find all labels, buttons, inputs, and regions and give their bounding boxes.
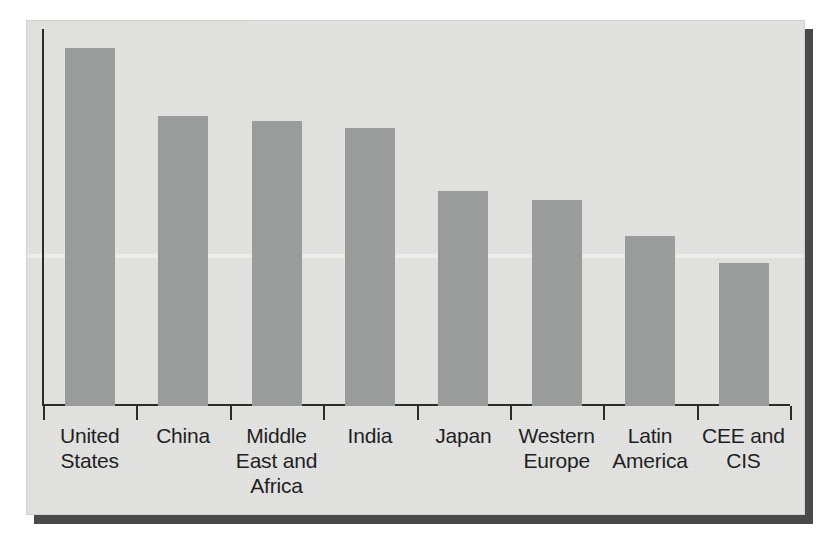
bar-united-states <box>65 48 115 406</box>
x-axis-tick <box>230 406 232 420</box>
label-line: Africa <box>230 473 323 498</box>
label-line: CEE and <box>697 423 790 448</box>
bar-western-europe <box>532 200 582 406</box>
y-axis-line <box>42 29 44 406</box>
plot-area: UnitedStatesChinaMiddleEast andAfricaInd… <box>27 21 804 514</box>
label-line: Middle <box>230 423 323 448</box>
x-axis-tick <box>323 406 325 420</box>
x-axis-label-united-states: UnitedStates <box>43 423 136 498</box>
x-axis-label-group: UnitedStatesChinaMiddleEast andAfricaInd… <box>43 423 790 498</box>
label-line: United <box>43 423 136 448</box>
label-line: Latin <box>603 423 696 448</box>
label-line: China <box>136 423 229 448</box>
label-line: Europe <box>510 448 603 473</box>
label-line: Japan <box>417 423 510 448</box>
bar-middle-east-and-africa <box>252 121 302 406</box>
x-axis-tick <box>417 406 419 420</box>
label-line: CIS <box>697 448 790 473</box>
label-line: America <box>603 448 696 473</box>
x-axis-tick <box>43 406 45 420</box>
label-line: Western <box>510 423 603 448</box>
bar-cee-and-cis <box>719 263 769 406</box>
figure-container: UnitedStatesChinaMiddleEast andAfricaInd… <box>0 0 826 537</box>
bar-japan <box>438 191 488 406</box>
scan-band <box>27 254 804 258</box>
x-axis-label-cee-and-cis: CEE andCIS <box>697 423 790 498</box>
bar-china <box>158 116 208 406</box>
label-line: India <box>323 423 416 448</box>
x-axis-tick <box>510 406 512 420</box>
x-axis-label-western-europe: WesternEurope <box>510 423 603 498</box>
x-axis-tick <box>603 406 605 420</box>
x-axis-label-china: China <box>136 423 229 498</box>
x-axis-label-middle-east-and-africa: MiddleEast andAfrica <box>230 423 323 498</box>
chart-panel: UnitedStatesChinaMiddleEast andAfricaInd… <box>26 20 805 515</box>
x-axis-tick <box>697 406 699 420</box>
x-axis-tick <box>136 406 138 420</box>
bar-latin-america <box>625 236 675 406</box>
x-axis-label-japan: Japan <box>417 423 510 498</box>
x-axis-tick <box>790 406 792 420</box>
bar-india <box>345 128 395 406</box>
label-line: States <box>43 448 136 473</box>
x-axis-label-latin-america: LatinAmerica <box>603 423 696 498</box>
x-axis-label-india: India <box>323 423 416 498</box>
label-line: East and <box>230 448 323 473</box>
